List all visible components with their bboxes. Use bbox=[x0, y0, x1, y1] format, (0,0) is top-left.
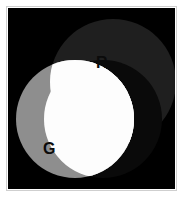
label-green-channel: G bbox=[43, 141, 55, 157]
rgb-venn-figure: R G bbox=[0, 0, 183, 197]
diagram-canvas: R G bbox=[8, 8, 175, 189]
label-red-channel: R bbox=[96, 55, 108, 71]
